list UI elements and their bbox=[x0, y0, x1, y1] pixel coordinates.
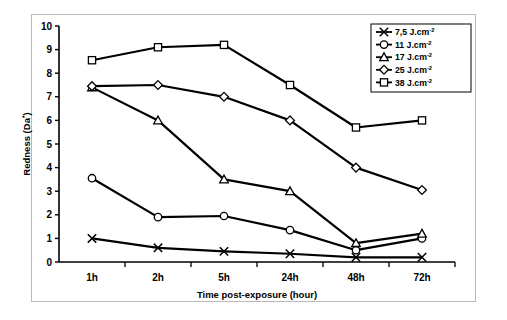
marker-square bbox=[154, 44, 161, 51]
legend-label-text: 7,5 J.cm bbox=[395, 27, 430, 37]
y-tick-label: 5 bbox=[46, 139, 52, 150]
marker-square bbox=[380, 79, 387, 86]
legend-label-text: 38 J.cm bbox=[395, 78, 427, 88]
x-tick-label: 2h bbox=[152, 272, 164, 283]
legend-item[interactable]: 17 J.cm-2 bbox=[376, 52, 432, 62]
y-tick-label: 0 bbox=[46, 257, 52, 268]
series-3 bbox=[88, 81, 427, 195]
marker-circle bbox=[220, 212, 227, 219]
x-tick-label: 72h bbox=[413, 272, 430, 283]
legend-label: 25 J.cm-2 bbox=[395, 65, 432, 75]
marker-square bbox=[352, 124, 359, 131]
y-tick-label: 8 bbox=[46, 68, 52, 79]
marker-circle bbox=[352, 247, 359, 254]
legend-label-exponent: -2 bbox=[427, 52, 432, 58]
legend-label-text: 11 J.cm bbox=[395, 40, 427, 50]
marker-circle bbox=[286, 226, 293, 233]
legend-item[interactable]: 38 J.cm-2 bbox=[376, 78, 432, 88]
marker-square bbox=[220, 41, 227, 48]
marker-square bbox=[286, 81, 293, 88]
marker-circle bbox=[88, 175, 95, 182]
y-tick-label: 2 bbox=[46, 209, 52, 220]
x-tick-label: 1h bbox=[86, 272, 98, 283]
legend-item[interactable]: 25 J.cm-2 bbox=[376, 65, 432, 75]
marker-square bbox=[418, 117, 425, 124]
x-axis-title: Time post-exposure (hour) bbox=[197, 289, 317, 300]
legend-label: 11 J.cm-2 bbox=[395, 40, 432, 50]
series-line bbox=[92, 178, 422, 250]
legend: 7,5 J.cm-211 J.cm-217 J.cm-225 J.cm-238 … bbox=[371, 24, 471, 92]
legend-label-text: 25 J.cm bbox=[395, 65, 427, 75]
legend-label: 38 J.cm-2 bbox=[395, 78, 432, 88]
y-tick-label: 4 bbox=[46, 162, 52, 173]
x-tick-label: 5h bbox=[218, 272, 230, 283]
y-axis-title-text: Redness (Da*) bbox=[21, 112, 33, 175]
marker-circle bbox=[380, 41, 387, 48]
x-tick-label: 48h bbox=[347, 272, 364, 283]
marker-diamond bbox=[418, 186, 427, 195]
marker-circle bbox=[154, 213, 161, 220]
y-title-end: ) bbox=[21, 112, 32, 115]
marker-square bbox=[88, 57, 95, 64]
legend-label-exponent: -2 bbox=[426, 40, 431, 46]
series-line bbox=[92, 87, 422, 243]
legend-label: 17 J.cm-2 bbox=[395, 52, 432, 62]
chart-canvas: 0123456789101h2h5h24h48h72hTime post-exp… bbox=[0, 0, 507, 320]
series-line bbox=[92, 85, 422, 190]
legend-item[interactable]: 11 J.cm-2 bbox=[376, 40, 432, 50]
marker-diamond bbox=[154, 81, 163, 90]
y-tick-label: 10 bbox=[41, 21, 53, 32]
y-title-main: Redness (Da bbox=[21, 117, 32, 175]
y-axis-title: Redness (Da*) bbox=[21, 112, 33, 175]
chart-figure: 0123456789101h2h5h24h48h72hTime post-exp… bbox=[0, 0, 507, 320]
legend-label-exponent: -2 bbox=[427, 65, 432, 71]
legend-label-text: 17 J.cm bbox=[395, 52, 427, 62]
legend-label-exponent: -2 bbox=[429, 27, 434, 33]
y-tick-label: 7 bbox=[46, 91, 52, 102]
legend-label: 7,5 J.cm-2 bbox=[395, 27, 434, 37]
x-tick-label: 24h bbox=[281, 272, 298, 283]
y-tick-label: 9 bbox=[46, 44, 52, 55]
legend-label-exponent: -2 bbox=[427, 78, 432, 84]
marker-diamond bbox=[220, 92, 229, 101]
y-tick-label: 3 bbox=[46, 186, 52, 197]
y-tick-label: 6 bbox=[46, 115, 52, 126]
series-1 bbox=[88, 175, 425, 254]
y-tick-label: 1 bbox=[46, 233, 52, 244]
